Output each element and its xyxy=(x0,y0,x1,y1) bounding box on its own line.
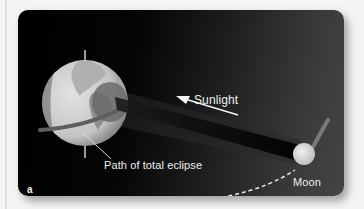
moon-label: Moon xyxy=(293,176,321,188)
panel-letter-label: a xyxy=(27,184,33,195)
moon-orbit-dashed-icon xyxy=(228,170,295,196)
earth-icon xyxy=(40,50,128,158)
sunlight-label: Sunlight xyxy=(194,93,238,107)
moon-motion-arrow-icon xyxy=(313,120,328,147)
eclipse-diagram-panel: Sunlight Path of total eclipse Moon a xyxy=(18,10,344,196)
page-margin-rule xyxy=(5,0,7,209)
moon-icon xyxy=(293,143,315,165)
eclipse-path-label: Path of total eclipse xyxy=(104,159,202,171)
